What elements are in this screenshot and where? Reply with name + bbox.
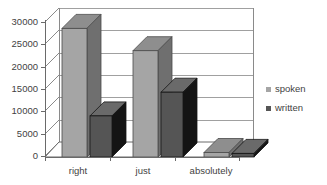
x-tick-label-absolutely: absolutely xyxy=(176,166,246,176)
bar-just-written xyxy=(161,78,197,157)
x-tick-label-right: right xyxy=(48,166,108,176)
x-tick-label-just: just xyxy=(113,166,173,176)
y-tick-label-30000: 30000 xyxy=(0,17,38,27)
chart-legend: spoken written xyxy=(266,84,306,122)
y-tick-label-10000: 10000 xyxy=(0,106,38,116)
bar-chart: 30000 25000 20000 15000 10000 5000 0 rig… xyxy=(0,0,327,185)
legend-label-written: written xyxy=(275,103,303,113)
legend-item-written: written xyxy=(266,103,306,113)
y-axis-ticks xyxy=(41,22,45,156)
bar-right-written xyxy=(90,102,126,157)
legend-item-spoken: spoken xyxy=(266,84,306,94)
y-tick-label-20000: 20000 xyxy=(0,62,38,72)
depth-connectors xyxy=(45,8,59,156)
y-tick-label-0: 0 xyxy=(0,151,38,161)
y-tick-label-5000: 5000 xyxy=(0,129,38,139)
x-axis-ticks xyxy=(45,157,239,161)
legend-label-spoken: spoken xyxy=(275,84,306,94)
legend-swatch-written xyxy=(266,106,271,111)
legend-swatch-spoken xyxy=(266,87,271,92)
y-tick-label-25000: 25000 xyxy=(0,39,38,49)
y-tick-label-15000: 15000 xyxy=(0,84,38,94)
